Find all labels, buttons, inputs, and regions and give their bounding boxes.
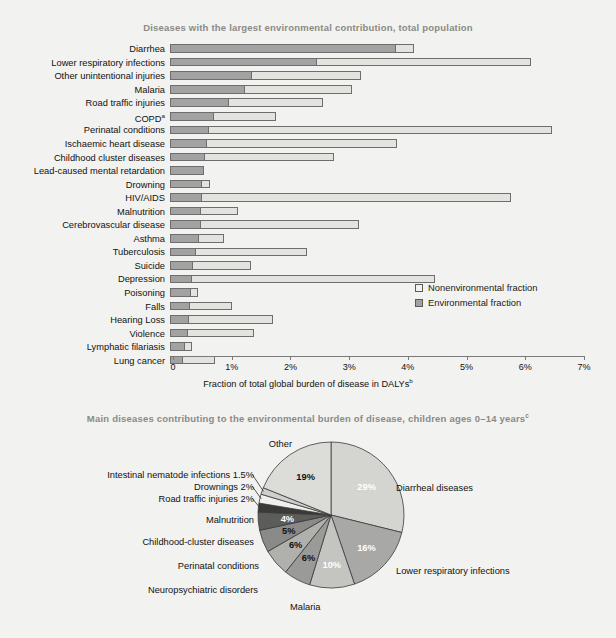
bar-track [170, 151, 616, 165]
pie-callout-label: Other [0, 439, 292, 449]
bar-segment-environmental [170, 207, 201, 216]
pie-chart-title-text: Main diseases contributing to the enviro… [87, 413, 525, 424]
bar-track [170, 300, 616, 314]
x-axis-tick [467, 356, 468, 360]
x-axis-tick [173, 356, 174, 360]
pie-callout-label: Lower respiratory infections [396, 566, 510, 576]
bar-track [170, 124, 616, 138]
pie-chart-title: Main diseases contributing to the enviro… [0, 412, 616, 424]
pie-callout-label: Perinatal conditions [0, 561, 259, 571]
bar-track [170, 84, 616, 98]
bar-segment-environmental [170, 329, 188, 338]
bar-segment-environmental [170, 126, 209, 135]
x-axis-tick-label: 6% [519, 362, 532, 372]
bar-category-label: Lead-caused mental retardation [0, 167, 170, 176]
bar-row: Tuberculosis [0, 246, 616, 260]
bar-segment-environmental [170, 315, 189, 324]
bar-track [170, 327, 616, 341]
bar-category-label: Lymphatic filariasis [0, 343, 170, 352]
pie-chart-title-footnote: c [525, 412, 529, 419]
bar-segment-environmental [170, 302, 190, 311]
bar-row: Ischaemic heart disease [0, 138, 616, 152]
bar-track [170, 287, 616, 301]
pie-slice-percent: 5% [282, 526, 295, 536]
bar-category-label: Drowning [0, 181, 170, 190]
bar-category-label: Poisoning [0, 289, 170, 298]
bar-category-label: Lower respiratory infections [0, 59, 170, 68]
legend-swatch-environmental-icon [415, 299, 423, 307]
bar-row: Hearing Loss [0, 314, 616, 328]
pie-chart: 29%16%10%6%6%5%4%19%Diarrheal diseasesLo… [0, 425, 616, 638]
bar-segment-environmental [170, 112, 214, 121]
bar-segment-environmental [170, 248, 196, 257]
bar-row: HIV/AIDS [0, 192, 616, 206]
bar-track [170, 314, 616, 328]
bar-category-label: Road traffic injuries [0, 99, 170, 108]
bar-segment-environmental [170, 261, 193, 270]
bar-category-label: Malnutrition [0, 208, 170, 217]
bar-chart-legend: Nonenvironmental fraction Environmental … [415, 282, 537, 312]
pie-slice-percent: 16% [357, 543, 376, 553]
x-axis-tick [525, 356, 526, 360]
legend-item-environmental[interactable]: Environmental fraction [415, 297, 537, 308]
bar-segment-nonenvironmental [170, 193, 511, 202]
bar-row: Lymphatic filariasis [0, 341, 616, 355]
bar-category-footnote: a [162, 112, 165, 119]
bar-category-label: Cerebrovascular disease [0, 221, 170, 230]
bar-category-label: Diarrhea [0, 45, 170, 54]
pie-callout-label: Intestinal nematode infections 1.5% [0, 470, 254, 480]
x-axis-tick [290, 356, 291, 360]
bar-row: Diarrhea [0, 43, 616, 57]
bar-row: Malnutrition [0, 206, 616, 220]
bar-track [170, 233, 616, 247]
pie-slice-percent: 6% [289, 540, 302, 550]
bar-category-label: Suicide [0, 262, 170, 271]
pie-callout-label: Malaria [290, 602, 320, 612]
pie-callout-label: Malnutrition [0, 515, 254, 525]
x-axis-title-footnote: b [409, 377, 412, 384]
bar-segment-environmental [170, 288, 191, 297]
x-axis-title-text: Fraction of total global burden of disea… [203, 379, 409, 389]
pie-slice-percent: 19% [296, 472, 315, 482]
pie-callout-label: Road traffic injuries 2% [0, 494, 254, 504]
bar-category-label: Hearing Loss [0, 316, 170, 325]
bar-chart: DiarrheaLower respiratory infectionsOthe… [0, 40, 616, 400]
x-axis-tick-label: 4% [401, 362, 414, 372]
bar-track [170, 165, 616, 179]
pie-callout-label: Neuropsychiatric disorders [0, 585, 258, 595]
pie-callout-label: Drownings 2% [0, 482, 254, 492]
x-axis-tick-label: 0 [170, 362, 175, 372]
bar-row: Lead-caused mental retardation [0, 165, 616, 179]
legend-item-nonenvironmental[interactable]: Nonenvironmental fraction [415, 282, 537, 293]
bar-track [170, 97, 616, 111]
pie-slice-percent: 4% [281, 514, 294, 524]
bar-category-label: Childhood cluster diseases [0, 154, 170, 163]
bar-category-label: Ischaemic heart disease [0, 140, 170, 149]
x-axis-tick [232, 356, 233, 360]
bar-row: Perinatal conditions [0, 124, 616, 138]
bar-row: Childhood cluster diseases [0, 151, 616, 165]
bar-row: Violence [0, 327, 616, 341]
bar-segment-environmental [170, 153, 205, 162]
bar-category-label: Other unintentional injuries [0, 72, 170, 81]
bar-segment-environmental [170, 71, 252, 80]
bar-segment-environmental [170, 180, 202, 189]
bar-category-label: HIV/AIDS [0, 194, 170, 203]
x-axis-line [173, 356, 584, 357]
bar-chart-title: Diseases with the largest environmental … [0, 22, 616, 33]
bar-track [170, 57, 616, 71]
bar-category-label: Violence [0, 330, 170, 339]
bar-segment-environmental [170, 44, 396, 53]
bar-row: Suicide [0, 260, 616, 274]
bar-track [170, 178, 616, 192]
bar-row: COPDa [0, 111, 616, 125]
bar-segment-environmental [170, 166, 204, 175]
legend-label-environmental: Environmental fraction [428, 297, 521, 308]
bar-category-label: Perinatal conditions [0, 126, 170, 135]
bar-segment-environmental [170, 139, 207, 148]
bar-category-label: Lung cancer [0, 357, 170, 366]
bar-segment-environmental [170, 342, 185, 351]
x-axis-tick-label: 3% [343, 362, 356, 372]
bar-row: Asthma [0, 233, 616, 247]
bar-track [170, 111, 616, 125]
